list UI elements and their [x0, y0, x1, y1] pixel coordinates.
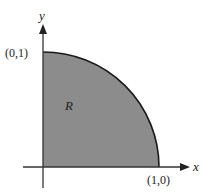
- point-label-0-1: (0,1): [5, 46, 28, 60]
- region-label: R: [64, 98, 73, 113]
- point-label-1-0: (1,0): [147, 173, 170, 187]
- y-axis-label: y: [37, 8, 45, 23]
- y-axis-arrowhead-icon: [39, 24, 47, 34]
- diagram-canvas: y x (0,1) (1,0) R: [0, 0, 203, 196]
- x-axis-arrowhead-icon: [180, 163, 190, 171]
- region-r-fill: [43, 52, 159, 167]
- quarter-circle-diagram: y x (0,1) (1,0) R: [0, 0, 203, 196]
- x-axis-label: x: [192, 159, 199, 174]
